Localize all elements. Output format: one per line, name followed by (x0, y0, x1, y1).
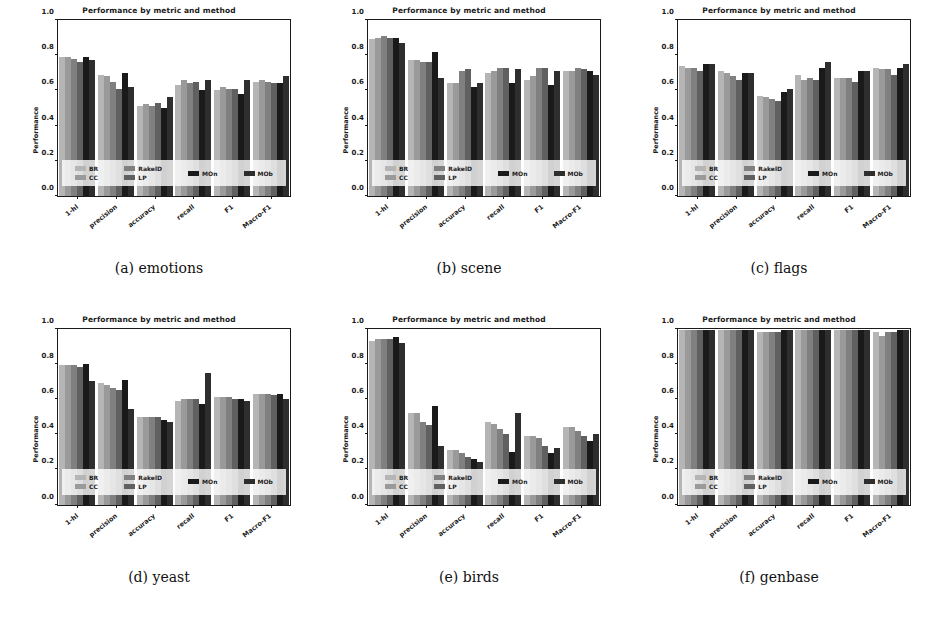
bar-mob-macro-f1[interactable] (903, 330, 909, 504)
bar-mob-precision[interactable] (748, 73, 754, 196)
bar-group (561, 20, 600, 196)
bar-mob-macro-f1[interactable] (593, 75, 599, 196)
panel-caption-a: (a) emotions (115, 260, 203, 276)
bar-mob-macro-f1[interactable] (593, 434, 599, 504)
bar-mob-1-hl[interactable] (89, 381, 95, 504)
y-axis-label: Performance (32, 415, 40, 462)
bar-mob-macro-f1[interactable] (903, 64, 909, 196)
y-tick-label: 0.4 (42, 114, 54, 122)
bar-group (484, 20, 523, 196)
bar-mob-accuracy[interactable] (787, 330, 793, 504)
x-tick-mark (77, 196, 78, 199)
bar-group (755, 20, 794, 196)
bar-mob-f1[interactable] (244, 401, 250, 505)
bar-group (174, 20, 213, 196)
bar-mob-recall[interactable] (825, 62, 831, 196)
x-tick-label-f1: F1 (223, 512, 235, 524)
y-tick-label: 0.8 (662, 43, 674, 51)
bar-mob-f1[interactable] (864, 330, 870, 504)
bar-mob-recall[interactable] (205, 373, 211, 505)
x-tick-mark (891, 196, 892, 199)
x-tick-mark (232, 196, 233, 199)
bar-group (368, 329, 407, 505)
bar-mob-macro-f1[interactable] (283, 399, 289, 505)
bar-mob-1-hl[interactable] (709, 330, 715, 504)
chart-title: Performance by metric and method (321, 6, 617, 15)
bar-group (135, 20, 174, 196)
bar-mob-1-hl[interactable] (709, 64, 715, 196)
y-tick-label: 0.0 (42, 493, 54, 501)
x-tick-label-macro-f1: Macro-F1 (242, 203, 274, 230)
y-tick-label: 0.8 (42, 43, 54, 51)
bar-mob-f1[interactable] (554, 448, 560, 504)
y-tick-label: 0.4 (662, 114, 674, 122)
bar-group (561, 329, 600, 505)
bar-mob-accuracy[interactable] (167, 97, 173, 196)
bar-mob-1-hl[interactable] (89, 60, 95, 196)
x-tick-label-accuracy: accuracy (127, 512, 157, 538)
x-tick-mark (426, 196, 427, 199)
y-tick-label: 0.2 (42, 149, 54, 157)
y-tick-label: 0.8 (352, 352, 364, 360)
bar-mob-accuracy[interactable] (787, 89, 793, 196)
bar-mob-f1[interactable] (244, 80, 250, 196)
x-tick-label-f1: F1 (533, 512, 545, 524)
bar-group (445, 20, 484, 196)
y-tick-label: 0.4 (42, 422, 54, 430)
chart-c: Performance by metric and methodPerforma… (631, 4, 927, 256)
y-tick-label: 1.0 (662, 317, 674, 325)
bar-mob-recall[interactable] (515, 413, 521, 505)
bar-group (717, 20, 756, 196)
x-tick-label-macro-f1: Macro-F1 (552, 203, 584, 230)
y-axis-label: Performance (652, 107, 660, 154)
x-tick-mark (581, 196, 582, 199)
figure-grid: Performance by metric and methodPerforma… (0, 0, 942, 625)
bar-mob-precision[interactable] (128, 87, 134, 196)
x-tick-label-1-hl: 1-hl (374, 203, 390, 218)
x-tick-label-accuracy: accuracy (437, 203, 467, 229)
y-tick-label: 0.0 (352, 493, 364, 501)
chart-a: Performance by metric and methodPerforma… (11, 4, 307, 256)
x-tick-label-recall: recall (795, 203, 816, 222)
bar-mob-accuracy[interactable] (167, 422, 173, 505)
chart-panel-a: Performance by metric and methodPerforma… (4, 4, 314, 313)
x-tick-label-accuracy: accuracy (127, 203, 157, 229)
x-tick-label-precision: precision (397, 203, 428, 230)
bar-mob-macro-f1[interactable] (283, 76, 289, 196)
chart-title: Performance by metric and method (11, 315, 307, 324)
bar-mob-precision[interactable] (438, 446, 444, 504)
bar-mob-accuracy[interactable] (477, 83, 483, 196)
bar-mob-precision[interactable] (748, 330, 754, 504)
bar-group (678, 329, 717, 505)
y-tick-label: 0.4 (352, 422, 364, 430)
bar-mob-precision[interactable] (438, 78, 444, 196)
bar-mob-f1[interactable] (864, 71, 870, 196)
panel-caption-e: (e) birds (439, 569, 499, 585)
bars-container (368, 20, 600, 196)
bar-mob-recall[interactable] (825, 330, 831, 504)
bar-group (135, 329, 174, 505)
bar-mob-1-hl[interactable] (399, 343, 405, 505)
x-tick-mark (503, 196, 504, 199)
x-tick-label-precision: precision (87, 203, 118, 230)
bar-mob-precision[interactable] (128, 409, 134, 504)
bar-mob-1-hl[interactable] (399, 43, 405, 196)
x-tick-mark (697, 505, 698, 508)
bar-mob-accuracy[interactable] (477, 462, 483, 504)
bar-group (484, 329, 523, 505)
x-tick-mark (426, 505, 427, 508)
panel-caption-d: (d) yeast (128, 569, 190, 585)
x-tick-label-macro-f1: Macro-F1 (242, 512, 274, 539)
x-tick-label-accuracy: accuracy (437, 512, 467, 538)
bar-mob-f1[interactable] (554, 71, 560, 196)
bar-group (717, 329, 756, 505)
y-tick-label: 0.2 (352, 149, 364, 157)
y-axis-label: Performance (32, 107, 40, 154)
bar-mob-recall[interactable] (515, 69, 521, 196)
x-tick-label-f1: F1 (533, 203, 545, 215)
x-tick-label-macro-f1: Macro-F1 (862, 203, 894, 230)
bar-group (678, 20, 717, 196)
x-tick-mark (542, 196, 543, 199)
bar-mob-recall[interactable] (205, 80, 211, 196)
x-tick-label-precision: precision (397, 512, 428, 539)
